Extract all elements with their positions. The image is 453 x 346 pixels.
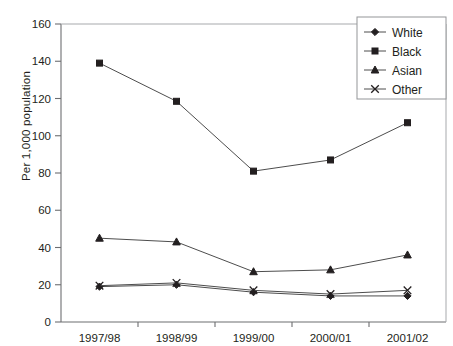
chart-legend: WhiteBlackAsianOther bbox=[357, 17, 446, 99]
y-tick-label: 120 bbox=[32, 93, 51, 105]
series-white-point-diamond-marker bbox=[96, 283, 103, 290]
x-tick-label: 1997/98 bbox=[79, 332, 121, 344]
y-tick-label: 160 bbox=[32, 18, 51, 30]
y-tick-label: 140 bbox=[32, 55, 51, 67]
series-black-point-square-marker bbox=[405, 120, 411, 126]
series-asian-point-triangle-marker bbox=[404, 251, 412, 258]
series-black-point-square-marker bbox=[328, 157, 334, 163]
legend-label-white: White bbox=[392, 26, 423, 40]
y-axis-ticks: 020406080100120140160 bbox=[32, 18, 61, 328]
chart-canvas: 020406080100120140160 1997/981998/991999… bbox=[0, 0, 453, 346]
x-tick-label: 1999/00 bbox=[233, 332, 275, 344]
legend-label-other: Other bbox=[392, 83, 422, 97]
legend-black-square-marker bbox=[372, 48, 378, 54]
y-tick-label: 0 bbox=[45, 316, 51, 328]
legend-label-asian: Asian bbox=[392, 64, 422, 78]
legend-label-black: Black bbox=[392, 45, 422, 59]
y-tick-label: 20 bbox=[38, 279, 51, 291]
x-axis-ticks: 1997/981998/991999/002000/012001/02 bbox=[79, 322, 429, 344]
series-black-point-square-marker bbox=[174, 98, 180, 104]
x-tick-label: 1998/99 bbox=[156, 332, 198, 344]
series-asian-point-triangle-marker bbox=[96, 234, 104, 241]
y-tick-label: 40 bbox=[38, 242, 51, 254]
x-tick-label: 2000/01 bbox=[310, 332, 352, 344]
y-tick-label: 60 bbox=[38, 204, 51, 216]
y-tick-label: 80 bbox=[38, 167, 51, 179]
series-black-point-square-marker bbox=[251, 168, 257, 174]
line-chart: Per 1,000 population 0204060801001201401… bbox=[0, 0, 453, 346]
x-tick-label: 2001/02 bbox=[387, 332, 429, 344]
y-tick-label: 100 bbox=[32, 130, 51, 142]
series-black-point-square-marker bbox=[97, 60, 103, 66]
